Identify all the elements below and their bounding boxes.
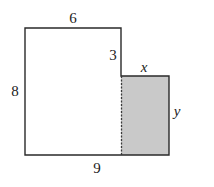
label-bottom: 9	[93, 160, 101, 176]
shaded-region	[121, 76, 169, 155]
label-step: 3	[109, 47, 117, 63]
composite-shape-diagram: 6 3 x 8 y 9	[0, 0, 214, 187]
label-left: 8	[11, 83, 19, 99]
label-top: 6	[69, 10, 77, 26]
label-shaded-right: y	[172, 103, 181, 119]
label-shaded-top: x	[140, 59, 148, 75]
